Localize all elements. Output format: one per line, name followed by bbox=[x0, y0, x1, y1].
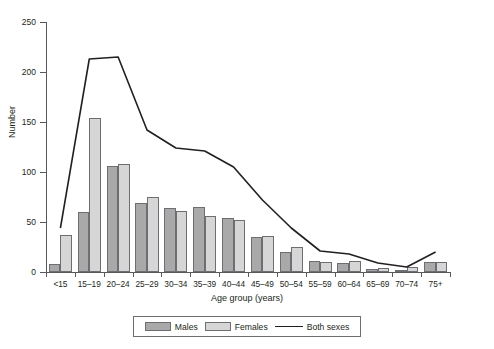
x-axis-title: Age group (years) bbox=[0, 293, 494, 303]
legend-item-females: Females bbox=[205, 322, 268, 332]
x-tick bbox=[133, 272, 134, 277]
legend-label-females: Females bbox=[235, 322, 268, 332]
x-tick bbox=[450, 272, 451, 277]
legend-label-both-sexes: Both sexes bbox=[307, 322, 350, 332]
x-tick-label: 75+ bbox=[414, 279, 457, 289]
x-tick bbox=[248, 272, 249, 277]
legend-label-males: Males bbox=[175, 322, 198, 332]
x-tick bbox=[75, 272, 76, 277]
y-tick-label: 250 bbox=[2, 18, 36, 26]
y-tick-label: 50 bbox=[2, 218, 36, 226]
y-tick-label: 100 bbox=[2, 168, 36, 176]
x-tick bbox=[392, 272, 393, 277]
females-swatch-icon bbox=[205, 322, 231, 331]
x-tick bbox=[306, 272, 307, 277]
legend-item-both-sexes: Both sexes bbox=[275, 322, 350, 332]
legend-item-males: Males bbox=[145, 322, 198, 332]
x-tick bbox=[219, 272, 220, 277]
line-swatch-icon bbox=[275, 326, 303, 327]
y-tick-label: 150 bbox=[2, 118, 36, 126]
y-tick-label: 200 bbox=[2, 68, 36, 76]
x-tick bbox=[104, 272, 105, 277]
x-tick bbox=[277, 272, 278, 277]
x-tick bbox=[421, 272, 422, 277]
x-tick bbox=[335, 272, 336, 277]
males-swatch-icon bbox=[145, 322, 171, 331]
chart-legend: Males Females Both sexes bbox=[133, 316, 361, 337]
both-sexes-line bbox=[46, 22, 450, 272]
plot-area bbox=[46, 22, 450, 272]
x-tick bbox=[46, 272, 47, 277]
x-tick bbox=[363, 272, 364, 277]
y-tick-label: 0 bbox=[2, 268, 36, 276]
x-tick bbox=[190, 272, 191, 277]
x-tick bbox=[161, 272, 162, 277]
chart-figure: Number Age group (years) 050100150200250… bbox=[0, 0, 494, 349]
